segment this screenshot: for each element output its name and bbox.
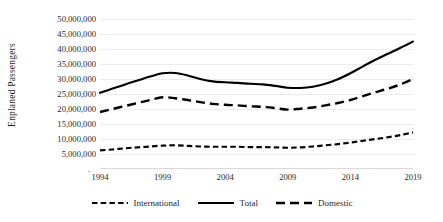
y-tick-label: 15,000,000 bbox=[57, 120, 96, 129]
y-tick-label: 50,000,000 bbox=[57, 15, 96, 24]
legend-item-international[interactable]: International bbox=[91, 198, 180, 208]
legend-swatch-international bbox=[91, 198, 129, 208]
data-series-group bbox=[100, 19, 413, 169]
y-tick-label: 40,000,000 bbox=[57, 45, 96, 54]
series-svg bbox=[100, 19, 413, 169]
chart-legend: International Total Domestic bbox=[0, 198, 443, 208]
y-axis-tick-labels: 5,000,00010,000,00015,000,00020,000,0002… bbox=[24, 0, 96, 175]
chart-figure: Enplaned Passengers 5,000,00010,000,0001… bbox=[0, 0, 443, 222]
y-tick-label: 25,000,000 bbox=[57, 90, 96, 99]
x-tick-label: 1994 bbox=[91, 172, 108, 182]
legend-swatch-total bbox=[197, 198, 235, 208]
plot-area bbox=[100, 19, 413, 169]
x-tick-label: 1999 bbox=[154, 172, 171, 182]
legend-item-domestic[interactable]: Domestic bbox=[275, 198, 353, 208]
y-tick-label: 10,000,000 bbox=[57, 135, 96, 144]
legend-label-domestic: Domestic bbox=[318, 198, 353, 208]
legend-item-total[interactable]: Total bbox=[197, 198, 258, 208]
legend-swatch-domestic bbox=[275, 198, 313, 208]
x-tick-label: 2014 bbox=[342, 172, 359, 182]
legend-label-total: Total bbox=[240, 198, 258, 208]
x-tick-label: 2009 bbox=[279, 172, 296, 182]
series-line-international bbox=[100, 132, 413, 150]
y-axis-title-text: Enplaned Passengers bbox=[7, 43, 17, 127]
y-tick-label: 5,000,000 bbox=[62, 150, 96, 159]
x-axis-tick-labels: 199419992004200920142019 bbox=[100, 172, 413, 186]
y-tick-label: 45,000,000 bbox=[57, 30, 96, 39]
y-tick-label: 30,000,000 bbox=[57, 75, 96, 84]
origin-tick-marker: - bbox=[88, 167, 91, 176]
y-axis-title: Enplaned Passengers bbox=[2, 0, 22, 170]
x-tick-label: 2019 bbox=[404, 172, 421, 182]
y-tick-label: 20,000,000 bbox=[57, 105, 96, 114]
series-line-total bbox=[100, 42, 413, 93]
legend-label-international: International bbox=[134, 198, 180, 208]
y-tick-label: 35,000,000 bbox=[57, 60, 96, 69]
x-tick-label: 2004 bbox=[217, 172, 234, 182]
